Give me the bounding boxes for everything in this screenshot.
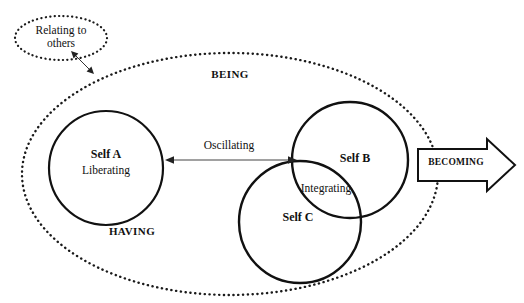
being-region-label: BEING xyxy=(185,68,275,80)
relating-line-2: others xyxy=(22,37,100,50)
self-a-subtitle: Liberating xyxy=(66,164,146,177)
becoming-label: BECOMING xyxy=(420,157,492,168)
having-region-label: HAVING xyxy=(87,225,177,237)
self-a-title: Self A xyxy=(66,148,146,161)
self-b-title: Self B xyxy=(320,152,390,165)
integrating-label: Integrating xyxy=(288,182,364,195)
oscillating-arrow xyxy=(165,156,297,164)
relating-arrow xyxy=(71,51,94,74)
diagram-canvas: Relating to others BEING HAVING Self A L… xyxy=(0,0,524,303)
relating-to-others-label: Relating to others xyxy=(22,24,100,50)
self-c-title: Self C xyxy=(263,211,333,224)
relating-line-1: Relating to xyxy=(22,24,100,37)
oscillating-label: Oscillating xyxy=(186,139,272,152)
